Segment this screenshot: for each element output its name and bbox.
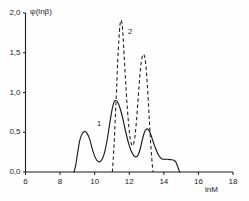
- chart-figure: 0,00,51,01,52,0 681012141618 ψ(lnβ) lnM …: [0, 0, 249, 201]
- x-axis-tick-label: 14: [152, 178, 176, 186]
- y-axis-tick-label: 0,0: [0, 168, 21, 176]
- curve-1-solid: [74, 100, 180, 172]
- x-axis-tick-label: 10: [83, 178, 107, 186]
- y-axis-tick-label: 0,5: [0, 128, 21, 136]
- y-axis-tick-label: 1,0: [0, 89, 21, 97]
- y-axis-tick-label: 1,5: [0, 49, 21, 57]
- curve-label-2: 2: [128, 28, 132, 36]
- x-axis-tick-label: 8: [48, 178, 72, 186]
- x-axis-tick-label: 12: [117, 178, 141, 186]
- y-axis-title: ψ(lnβ): [30, 8, 52, 16]
- x-axis-tick-label: 18: [221, 178, 245, 186]
- chart-plot-area: [0, 0, 249, 201]
- curve-label-1: 1: [97, 120, 101, 128]
- x-axis-title: lnM: [205, 186, 218, 194]
- curve-2-dashed: [112, 20, 153, 172]
- x-axis-tick-label: 6: [14, 178, 38, 186]
- y-axis-tick-label: 2,0: [0, 9, 21, 17]
